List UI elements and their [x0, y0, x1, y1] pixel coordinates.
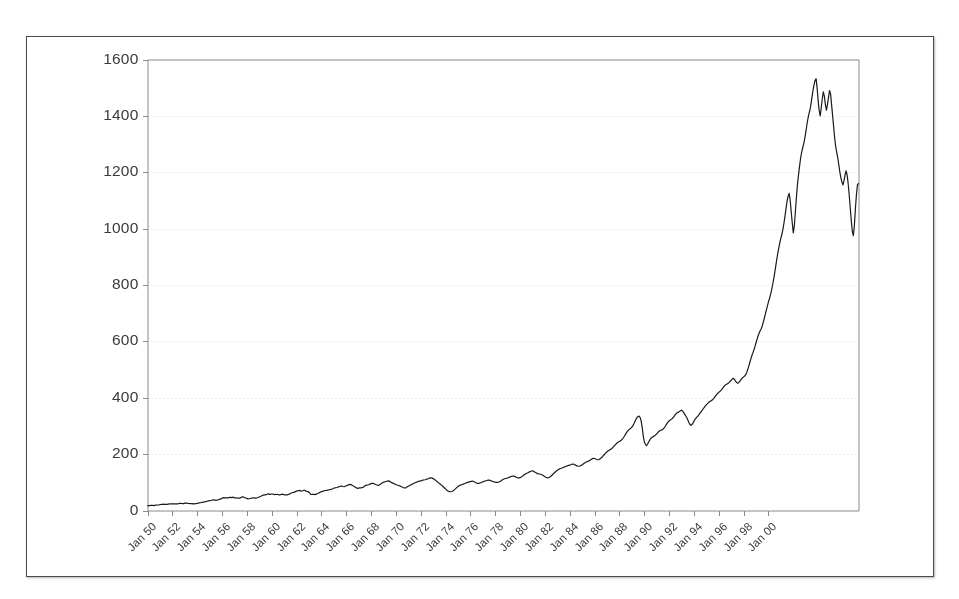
line-chart-canvas	[0, 0, 959, 599]
